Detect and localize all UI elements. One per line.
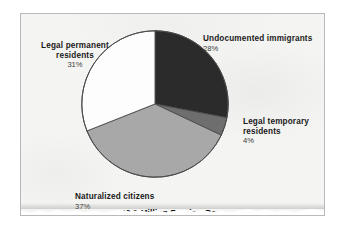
slice-label-legal-permanent-residents: Legal permanent residents 31%: [23, 41, 127, 70]
slice-label-category-line1: Legal temporary: [243, 117, 309, 127]
slice-label-category: Undocumented immigrants: [203, 34, 312, 44]
slice-label-legal-temporary-residents: Legal temporary residents 4%: [243, 117, 309, 146]
slice-label-category: Naturalized citizens: [75, 192, 154, 202]
slice-label-category-line2: residents: [243, 127, 309, 137]
slice-label-percent: 28%: [203, 45, 312, 54]
slice-label-undocumented-immigrants: Undocumented immigrants 28%: [203, 34, 312, 54]
slice-label-percent: 4%: [243, 137, 309, 146]
slice-label-percent: 31%: [23, 61, 127, 70]
slice-label-category-line2: residents: [23, 51, 127, 61]
slice-label-category-line1: Legal permanent: [23, 41, 127, 51]
scanned-page-frame: Undocumented immigrants 28% Legal tempor…: [20, 13, 325, 216]
